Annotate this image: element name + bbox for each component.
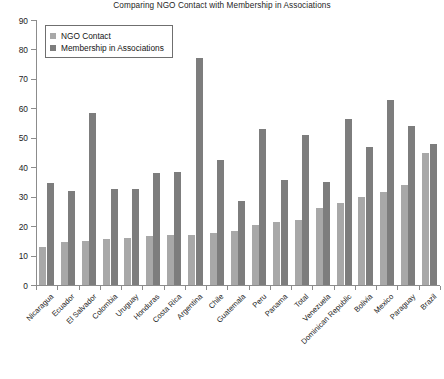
y-tick-label: 80 (19, 45, 28, 55)
x-tick-label: Bolivia (352, 292, 374, 314)
legend-label-ngo-contact: NGO Contact (61, 31, 111, 41)
bar (281, 180, 288, 285)
x-tick-mark (79, 286, 80, 290)
bar (259, 129, 266, 285)
legend-swatch-icon-ngo-contact (50, 33, 56, 39)
bar (47, 183, 54, 285)
bar (210, 233, 217, 285)
bar (408, 126, 415, 285)
x-axis-label: Bolivia (352, 292, 374, 314)
x-tick-mark (376, 286, 377, 290)
legend-swatch-icon-membership (50, 45, 56, 51)
x-axis-label: Peru (250, 292, 268, 310)
bar (401, 185, 408, 285)
bar (61, 242, 68, 285)
bar (111, 189, 118, 285)
x-axis-label: Panama (263, 292, 289, 318)
x-axis-line (36, 285, 440, 286)
bar (68, 191, 75, 285)
y-tick-label: 40 (19, 163, 28, 173)
x-tick-mark (121, 286, 122, 290)
x-tick-mark (270, 286, 271, 290)
bar (153, 173, 160, 285)
bar (238, 201, 245, 285)
bar (39, 247, 46, 285)
bar (366, 147, 373, 285)
y-tick-label: 50 (19, 133, 28, 143)
x-tick-mark (249, 286, 250, 290)
bar (167, 235, 174, 285)
y-tick-label: 70 (19, 74, 28, 84)
legend-item-ngo-contact: NGO Contact (50, 30, 164, 41)
legend-label-membership: Membership in Associations (61, 43, 164, 53)
chart-title: Comparing NGO Contact with Membership in… (0, 1, 444, 10)
x-tick-mark (142, 286, 143, 290)
x-tick-label: Nicaragua (25, 292, 56, 323)
bar (345, 119, 352, 285)
x-axis-label: Brazil (418, 292, 438, 312)
bar (430, 144, 437, 285)
x-tick-label: Panama (263, 292, 289, 318)
y-tick-label: 0 (23, 281, 28, 291)
bar (188, 235, 195, 285)
y-tick-label: 30 (19, 192, 28, 202)
x-tick-mark (57, 286, 58, 290)
bar (316, 208, 323, 285)
y-tick-label: 20 (19, 222, 28, 232)
bar (252, 225, 259, 285)
bar (422, 153, 429, 286)
bar (196, 58, 203, 285)
x-tick-mark (36, 286, 37, 290)
x-tick-mark (334, 286, 335, 290)
bar (89, 113, 96, 285)
x-tick-mark (206, 286, 207, 290)
x-tick-label: Brazil (418, 292, 438, 312)
plot-area (36, 20, 440, 285)
bar (302, 135, 309, 285)
x-tick-mark (164, 286, 165, 290)
x-tick-label: Total (293, 292, 311, 310)
bar (146, 236, 153, 285)
bar (124, 238, 131, 285)
x-tick-label: Peru (250, 292, 268, 310)
x-tick-mark (312, 286, 313, 290)
x-axis-label: Total (293, 292, 311, 310)
x-tick-mark (227, 286, 228, 290)
bar (358, 197, 365, 285)
x-tick-mark (440, 286, 441, 290)
bar (337, 203, 344, 285)
bar (103, 239, 110, 285)
bar (174, 172, 181, 285)
bar (273, 222, 280, 285)
x-tick-mark (419, 286, 420, 290)
y-tick-label: 90 (19, 16, 28, 26)
bar (82, 241, 89, 285)
bar (295, 220, 302, 285)
legend-item-membership: Membership in Associations (50, 42, 164, 53)
chart-legend: NGO Contact Membership in Associations (45, 25, 173, 58)
x-axis-label: Nicaragua (25, 292, 56, 323)
y-tick-label: 60 (19, 104, 28, 114)
bar (231, 231, 238, 285)
bar (323, 182, 330, 285)
y-tick-label: 10 (19, 251, 28, 261)
bar-chart: Comparing NGO Contact with Membership in… (0, 0, 444, 379)
x-tick-label: Chile (207, 292, 226, 311)
x-axis-label: Chile (207, 292, 226, 311)
x-tick-mark (185, 286, 186, 290)
bar (380, 192, 387, 285)
bar (217, 160, 224, 285)
bar (132, 189, 139, 285)
x-tick-mark (355, 286, 356, 290)
x-tick-mark (100, 286, 101, 290)
x-tick-mark (291, 286, 292, 290)
bar (387, 100, 394, 286)
x-tick-mark (397, 286, 398, 290)
